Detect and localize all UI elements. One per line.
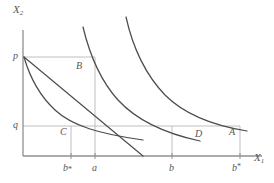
x-tick-label-a: a: [92, 163, 97, 173]
guide-lines: [23, 57, 240, 156]
point-label-C: C: [60, 127, 67, 137]
y-tick-label-q: q: [13, 120, 18, 130]
indifference-curve-2: [83, 27, 200, 141]
point-label-A: A: [229, 127, 235, 137]
x-tick-label-b-star-sub: b*: [63, 163, 72, 174]
indifference-curve-3: [126, 17, 247, 131]
indifference-curves: [24, 17, 247, 141]
axes: [23, 30, 262, 156]
y-axis-title: X2: [13, 4, 23, 17]
indifference-curve-figure: X2 X1 p q b* a b b* B C D A: [0, 0, 274, 183]
y-tick-label-p: p: [13, 51, 18, 61]
indifference-curve-1: [24, 57, 143, 140]
point-label-B: B: [76, 61, 82, 71]
figure-canvas: [0, 0, 274, 183]
x-axis-title: X1: [254, 152, 264, 165]
x-tick-label-b-star-sup: b*: [232, 163, 241, 173]
x-tick-label-b: b: [169, 163, 174, 173]
point-label-D: D: [195, 129, 202, 139]
